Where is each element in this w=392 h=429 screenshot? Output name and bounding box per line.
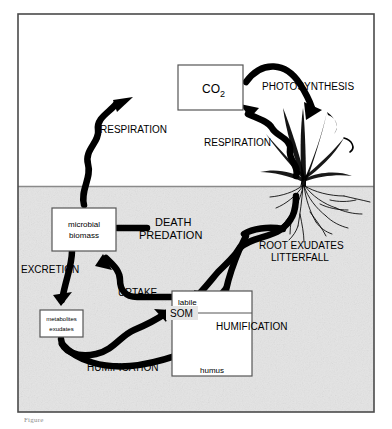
- root-exudates-label: ROOT EXUDATES: [259, 240, 344, 251]
- metabolites-line2: exudates: [49, 326, 73, 332]
- respiration-right-label: RESPIRATION: [204, 137, 271, 148]
- metabolites-exudates-box: [40, 310, 83, 337]
- respiration-left-label: RESPIRATION: [100, 124, 167, 135]
- co2-text: CO: [202, 82, 220, 96]
- co2-subscript: 2: [220, 89, 225, 99]
- metabolites-line1: metabolites: [46, 316, 77, 322]
- soil-carbon-cycle-diagram: CO2 microbial biomass metabolites exudat…: [0, 0, 392, 429]
- microbial-biomass-box: [52, 208, 116, 251]
- death-label: DEATH: [155, 216, 192, 228]
- excretion-label: EXCRETION: [21, 264, 79, 275]
- photosynthesis-label: PHOTOSYNTHESIS: [262, 81, 354, 92]
- humus-label: humus: [200, 366, 224, 375]
- microbial-biomass-line2: biomass: [69, 231, 99, 240]
- figure-root: CO2 microbial biomass metabolites exudat…: [0, 0, 392, 429]
- uptake-label: UPTAKE: [118, 287, 158, 298]
- predation-label: PREDATION: [139, 229, 202, 241]
- labile-label: labile: [178, 298, 197, 307]
- som-label: SOM: [170, 308, 193, 319]
- litterfall-label: LITTERFALL: [271, 252, 329, 263]
- microbial-biomass-line1: microbial: [68, 220, 100, 229]
- figure-caption: Figure: [24, 416, 364, 424]
- humification-bottom-label: HUMIFICATION: [87, 362, 158, 373]
- humification-right-label: HUMIFICATION: [216, 321, 287, 332]
